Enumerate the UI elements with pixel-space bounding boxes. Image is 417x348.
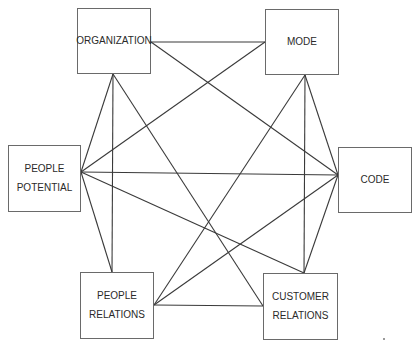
node-people-relations: PEOPLE RELATIONS	[80, 272, 154, 339]
node-code: CODE	[338, 147, 412, 213]
node-label: POTENTIAL	[17, 183, 73, 193]
edge-code-customer-relations	[304, 175, 338, 273]
edge-mode-people-relations	[154, 75, 305, 305]
node-mode: MODE	[265, 9, 339, 75]
node-customer-relations: CUSTOMER RELATIONS	[263, 273, 338, 340]
edge-mode-code	[305, 75, 338, 175]
edge-mode-customer-relations	[304, 75, 305, 273]
node-label: RELATIONS	[89, 310, 145, 320]
node-label: RELATIONS	[273, 311, 329, 321]
node-people-potential: PEOPLE POTENTIAL	[8, 145, 81, 212]
edge-organization-people-potential	[81, 74, 113, 172]
node-organization: ORGANIZATION	[77, 8, 151, 74]
edge-people-potential-code	[81, 172, 338, 175]
diagram-canvas: ORGANIZATION MODE PEOPLE POTENTIAL CODE …	[0, 0, 417, 348]
node-label: MODE	[287, 37, 317, 47]
edge-people-relations-customer-relations	[154, 305, 263, 306]
edge-people-potential-people-relations	[81, 172, 112, 272]
scan-speck	[383, 338, 385, 340]
node-label: ORGANIZATION	[76, 36, 151, 46]
node-label: PEOPLE	[24, 164, 64, 174]
edge-organization-people-relations	[112, 74, 113, 272]
node-label: CUSTOMER	[272, 292, 329, 302]
node-label: PEOPLE	[97, 291, 137, 301]
node-label: CODE	[361, 175, 390, 185]
